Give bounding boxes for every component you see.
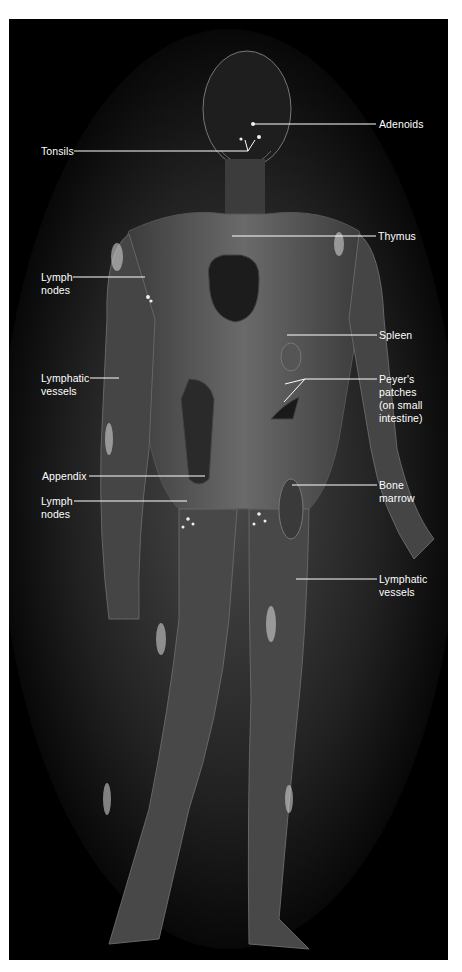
label-tonsils: Tonsils [41, 145, 74, 158]
label-lymphatic-vessels-left: Lymphatic vessels [41, 372, 89, 398]
label-peyers-patches: Peyer's patches (on small intestine) [379, 373, 423, 425]
label-thymus: Thymus [378, 230, 416, 243]
label-bone-marrow: Bone marrow [379, 479, 415, 505]
spleen-organ [281, 343, 301, 371]
label-lymphatic-vessels-right: Lymphatic vessels [379, 573, 427, 599]
lymphatic-system-illustration: Adenoids Tonsils Thymus Lymph nodes Sple… [9, 19, 448, 960]
label-adenoids: Adenoids [379, 118, 424, 131]
label-lymph-nodes-lower: Lymph nodes [41, 495, 73, 521]
label-spleen: Spleen [379, 329, 412, 342]
label-lymph-nodes-upper: Lymph nodes [41, 271, 73, 297]
head [203, 51, 291, 167]
label-appendix: Appendix [42, 470, 87, 483]
femur-bone-marrow [279, 479, 303, 539]
